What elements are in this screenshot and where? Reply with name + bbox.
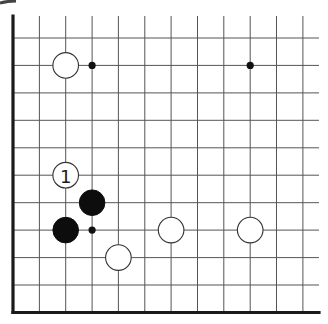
- star-point-icon: [89, 227, 96, 234]
- white-stone: [158, 217, 184, 243]
- white-stone-icon: [158, 217, 184, 243]
- star-point-icon: [247, 62, 254, 69]
- go-board: 1: [0, 0, 328, 324]
- white-stone: [237, 217, 263, 243]
- white-stone-icon: [237, 217, 263, 243]
- scan-artifact: [0, 1, 16, 3]
- black-stone-icon: [79, 190, 105, 216]
- stones: 1: [53, 53, 263, 271]
- move-number-label: 1: [60, 166, 71, 187]
- white-stone: [53, 53, 79, 79]
- white-stone-icon: [106, 245, 132, 271]
- white-stone: 1: [53, 162, 79, 188]
- black-stone-icon: [53, 217, 79, 243]
- white-stone-icon: [53, 53, 79, 79]
- star-point-icon: [89, 62, 96, 69]
- black-stone: [53, 217, 79, 243]
- black-stone: [79, 190, 105, 216]
- white-stone: [106, 245, 132, 271]
